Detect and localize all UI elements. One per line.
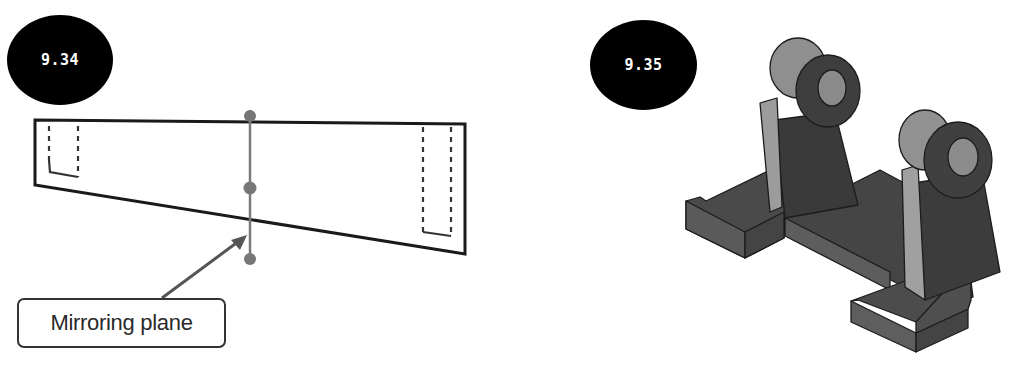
mirroring-plane-callout: Mirroring plane [17, 298, 226, 348]
bracket-3d-model [686, 38, 1000, 352]
right-boss-bore [948, 138, 978, 176]
left-upright-body [775, 112, 858, 218]
plane-point-marker-middle [244, 182, 257, 195]
plane-point-marker-top [244, 110, 256, 122]
plane-point-marker-bottom [244, 253, 256, 265]
callout-label: Mirroring plane [50, 310, 192, 336]
callout-arrow [162, 235, 247, 298]
left-boss-bore [818, 70, 846, 106]
